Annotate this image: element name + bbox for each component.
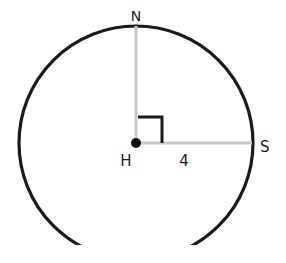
label-n: N [131, 8, 141, 24]
label-s: S [260, 138, 270, 156]
label-length: 4 [179, 152, 189, 170]
circle-diagram: N H 4 S [0, 0, 286, 263]
label-h: H [120, 152, 131, 170]
right-angle-mark [138, 117, 162, 143]
center-point [131, 138, 141, 148]
